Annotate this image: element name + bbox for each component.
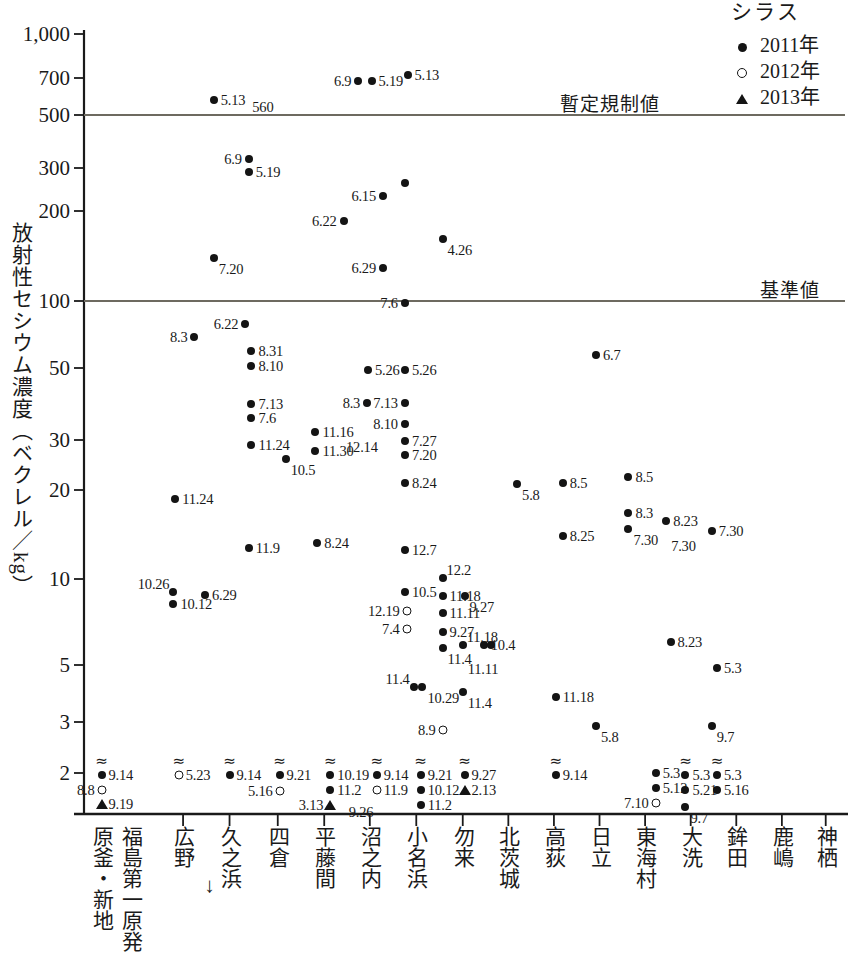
data-point	[368, 77, 376, 85]
data-point	[247, 362, 255, 370]
data-point-label: 12.2	[447, 563, 472, 578]
data-point	[245, 544, 253, 552]
data-point	[379, 192, 387, 200]
data-point	[169, 588, 177, 596]
below-detection-icon: ≈	[458, 754, 471, 769]
data-point	[439, 592, 447, 600]
data-point	[681, 803, 689, 811]
data-point	[461, 592, 469, 600]
x-axis-category-16: 神栖	[815, 826, 837, 868]
data-point	[401, 479, 409, 487]
data-point	[417, 771, 425, 779]
data-point	[210, 96, 218, 104]
reference-lines	[84, 115, 845, 301]
data-point-label: 8.9	[418, 723, 436, 738]
data-point-label: 5.3	[724, 661, 742, 676]
data-point	[459, 785, 471, 795]
data-point-label: 5.16	[724, 783, 749, 798]
data-point-label: 11.24	[258, 438, 289, 453]
below-detection-icon: ≈	[172, 754, 185, 769]
data-point-label: 10.19	[337, 768, 369, 783]
data-point-label: 6.15	[351, 189, 376, 204]
cesium-concentration-chart: 1,00070050030020010050302010532 放射性セシウム濃…	[0, 0, 852, 973]
y-tick-label: 500	[39, 105, 71, 126]
data-point	[326, 786, 334, 794]
data-point-label: 4.26	[448, 243, 473, 258]
data-point-label: 8.10	[258, 359, 283, 374]
data-point	[592, 351, 600, 359]
x-axis-category-2: 広野	[172, 826, 194, 868]
data-point-label: 8.8	[77, 783, 95, 798]
below-detection-icon: ≈	[95, 754, 108, 769]
x-axis-category-9: 北茨城	[497, 826, 519, 889]
y-tick-label: 300	[39, 158, 71, 179]
data-point	[402, 607, 411, 616]
data-point	[311, 447, 319, 455]
data-point	[552, 771, 560, 779]
data-point-label: 9.14	[384, 768, 409, 783]
data-point-label: 11.9	[256, 541, 280, 556]
data-point-label: 5.13	[415, 68, 440, 83]
legend-label-2013: 2013年	[760, 87, 820, 107]
data-point	[708, 722, 716, 730]
data-point-label: 11.16	[322, 425, 353, 440]
reference-line-label: 暫定規制値	[560, 89, 660, 116]
data-point	[373, 771, 381, 779]
data-point	[681, 771, 689, 779]
plant-location-arrow-icon: ↑	[91, 877, 215, 899]
data-point-label: 10.12	[180, 597, 212, 612]
y-tick-label: 20	[49, 480, 70, 501]
y-tick-label: 100	[39, 291, 71, 312]
data-point	[379, 264, 387, 272]
data-point	[461, 771, 469, 779]
x-axis-category-5: 平藤間	[313, 826, 335, 889]
data-point-label: 6.9	[224, 152, 242, 167]
data-point-label: 5.23	[186, 768, 211, 783]
data-point-label: 11.18	[563, 690, 594, 705]
data-point	[713, 786, 721, 794]
data-point	[247, 400, 255, 408]
data-point	[713, 771, 721, 779]
data-point-label: 6.29	[212, 588, 237, 603]
data-point	[96, 799, 108, 809]
data-point-label: 3.13	[299, 798, 324, 813]
y-tick-label: 1,000	[23, 24, 70, 45]
y-tick-label: 50	[49, 358, 70, 379]
data-point	[401, 437, 409, 445]
x-axis-category-4: 四倉	[267, 826, 289, 868]
legend: シラス 2011年 2012年 2013年	[731, 2, 820, 110]
x-axis-category-11: 日立	[588, 826, 610, 868]
data-point-label: 10.26	[138, 577, 170, 592]
y-tick-label: 30	[49, 430, 70, 451]
data-point	[245, 155, 253, 163]
data-point-label: 7.10	[624, 796, 649, 811]
data-point-label: 9.21	[287, 768, 312, 783]
below-detection-icon: ≈	[324, 754, 337, 769]
data-point-label: 9.26	[349, 805, 374, 820]
data-point-label: 7.20	[219, 262, 244, 277]
data-point	[311, 428, 319, 436]
data-point	[624, 473, 632, 481]
data-point-label: 560	[252, 100, 273, 115]
data-point	[354, 77, 362, 85]
data-point	[652, 784, 660, 792]
data-point	[418, 683, 426, 691]
below-detection-icon: ≈	[679, 754, 692, 769]
data-point	[401, 546, 409, 554]
below-detection-icon: ≈	[223, 754, 236, 769]
data-point-label: 10.12	[428, 783, 460, 798]
data-point	[438, 726, 447, 735]
data-point-label: 5.26	[412, 363, 437, 378]
data-point	[417, 786, 425, 794]
data-point-label: 5.3	[663, 766, 681, 781]
filled-triangle-icon	[731, 87, 753, 107]
data-point	[326, 771, 334, 779]
data-point-label: 7.6	[380, 296, 398, 311]
data-point-label: 11.9	[384, 783, 408, 798]
x-axis-category-15: 鹿嶋	[771, 826, 793, 868]
data-point	[226, 771, 234, 779]
x-axis-category-13: 大洗	[680, 826, 702, 868]
data-point-label: 11.4	[468, 696, 492, 711]
data-point-label: 5.8	[522, 488, 540, 503]
reference-line-label: 基準値	[760, 275, 820, 302]
